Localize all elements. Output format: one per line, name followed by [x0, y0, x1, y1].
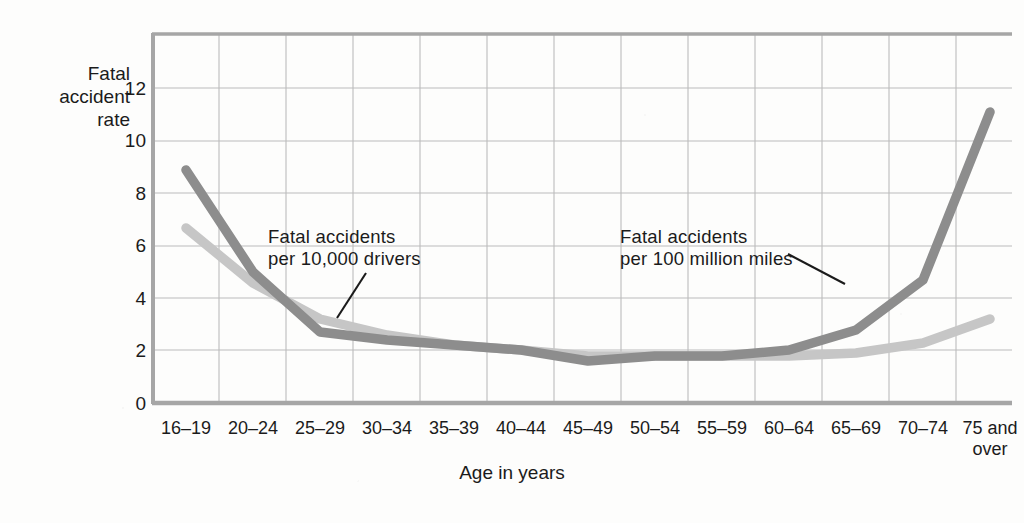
annotation-leader-miles	[788, 254, 845, 284]
x-tick-65-69: 65–69	[823, 418, 889, 439]
x-tick-60-64: 60–64	[756, 418, 822, 439]
annotation-miles-line-2: per 100 million miles	[620, 248, 793, 270]
x-axis-title: Age in years	[0, 462, 1024, 484]
annotation-miles-line-1: Fatal accidents	[620, 226, 793, 248]
annotation-per-100-million-miles: Fatal accidents per 100 million miles	[620, 226, 793, 270]
x-tick-40-44: 40–44	[488, 418, 554, 439]
annotation-leader-drivers	[337, 273, 366, 318]
x-tick-45-49: 45–49	[555, 418, 621, 439]
x-tick-50-54: 50–54	[622, 418, 688, 439]
annotation-drivers-line-2: per 10,000 drivers	[268, 248, 421, 270]
plot-area	[0, 0, 1024, 523]
x-tick-20-24: 20–24	[220, 418, 286, 439]
x-tick-30-34: 30–34	[354, 418, 420, 439]
x-tick-35-39: 35–39	[421, 418, 487, 439]
x-tick-25-29: 25–29	[287, 418, 353, 439]
x-tick-55-59: 55–59	[689, 418, 755, 439]
x-tick-16-19: 16–19	[153, 418, 219, 439]
chart-figure: Fatal accident rate 12 10 8 6 4 2 0	[0, 0, 1024, 523]
x-tick-75-and-over: 75 and over	[944, 418, 1024, 460]
annotation-drivers-line-1: Fatal accidents	[268, 226, 421, 248]
annotation-per-10000-drivers: Fatal accidents per 10,000 drivers	[268, 226, 421, 270]
